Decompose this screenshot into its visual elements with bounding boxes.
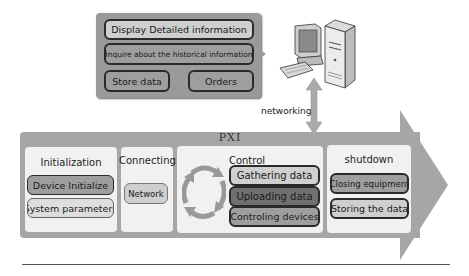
gathering-data-box: Gathering data xyxy=(229,165,320,186)
device-initialize-box: Device Initialize xyxy=(27,175,114,195)
stage-initialization-title: Initialization xyxy=(25,157,117,168)
closing-equipment-box: Closing equipment xyxy=(330,173,409,194)
uploading-data-box: Uploading data xyxy=(229,186,320,207)
controling-devices-box: Controling devices xyxy=(229,206,320,227)
panel-callout-pointer xyxy=(258,48,266,60)
storing-the-data-box: Storing the data xyxy=(330,198,409,219)
pxi-title: PXI xyxy=(200,131,260,144)
inquire-historical-information-box: Inquire about the historical information xyxy=(104,43,254,65)
network-box: Network xyxy=(124,183,168,204)
orders-box: Orders xyxy=(188,70,254,92)
stage-connecting-title: Connecting xyxy=(119,155,175,166)
store-data-box: Store data xyxy=(104,70,170,92)
bottom-divider xyxy=(22,264,450,265)
stage-shutdown-title: shutdown xyxy=(327,154,411,165)
cycle-arrows-icon xyxy=(182,163,226,221)
system-parameters-box: System parameters xyxy=(27,198,114,218)
networking-label: networking xyxy=(261,106,311,116)
display-detailed-information-box: Display Detailed information xyxy=(104,19,254,40)
